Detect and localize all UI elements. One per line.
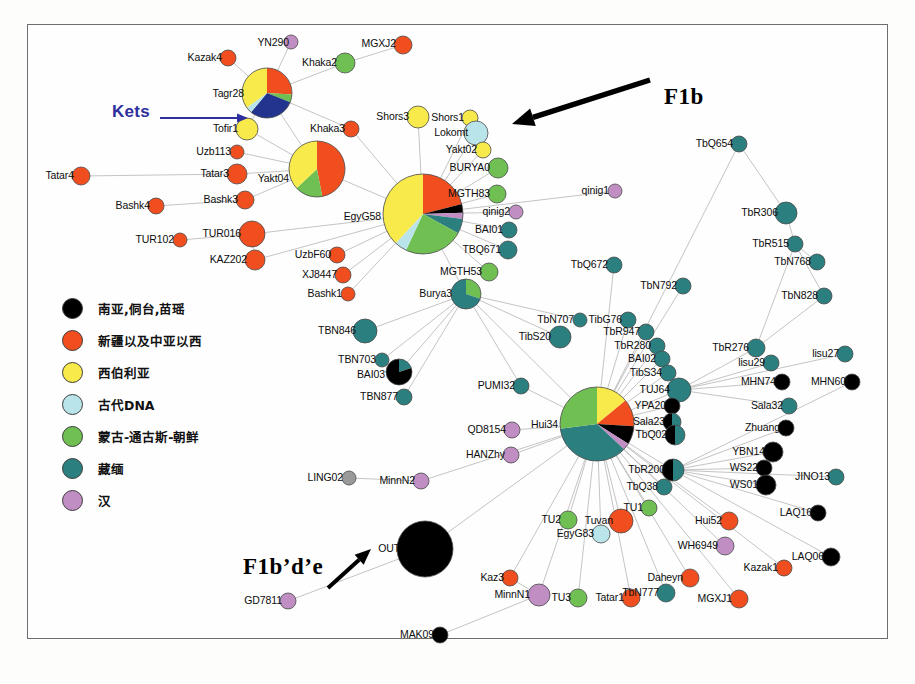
network-node-TbR515[interactable] (787, 236, 803, 252)
network-node-OUT[interactable] (397, 521, 453, 577)
node-disc (592, 525, 610, 543)
node-disc (664, 398, 680, 414)
network-node-LAQ16[interactable] (810, 505, 826, 521)
node-label-TbQ02: TbQ02 (635, 428, 667, 440)
network-node-BAI02[interactable] (654, 351, 670, 367)
network-node-Tagr28[interactable] (242, 68, 292, 118)
network-node-WH6949[interactable] (716, 537, 734, 555)
network-node-lisu27[interactable] (837, 346, 853, 362)
network-node-TUR016[interactable] (239, 221, 265, 247)
network-node-GD7811[interactable] (280, 593, 296, 609)
network-node-Khaka2[interactable] (335, 53, 355, 73)
network-node-TbQ654[interactable] (731, 136, 747, 152)
network-node-Sala32[interactable] (781, 398, 797, 414)
node-disc (394, 36, 412, 54)
network-node-EgyG58[interactable] (383, 174, 463, 254)
network-node-TbR306[interactable] (775, 202, 797, 224)
node-disc (230, 145, 244, 159)
network-node-TbR200[interactable] (662, 459, 684, 481)
network-node-PUMI32[interactable] (513, 378, 529, 394)
network-node-qinig1[interactable] (608, 184, 622, 198)
network-node-TbN777[interactable] (657, 584, 675, 602)
network-node-MHN60[interactable] (844, 374, 860, 390)
network-node-TbR276[interactable] (747, 339, 765, 357)
network-node-WS01[interactable] (756, 475, 776, 495)
network-node-TBN703[interactable] (375, 353, 389, 367)
network-node-YBN14[interactable] (763, 442, 783, 462)
network-node-TbR947[interactable] (638, 324, 654, 340)
network-node-HANZhy[interactable] (503, 447, 519, 463)
node-label-TibS34: TibS34 (630, 366, 662, 378)
network-node-MGXJ2[interactable] (394, 36, 412, 54)
network-node-MGXJ1[interactable] (730, 590, 748, 608)
node-disc (781, 398, 797, 414)
node-label-WH6949: WH6949 (678, 539, 718, 551)
node-disc (528, 584, 550, 606)
network-node-MGTH53[interactable] (480, 263, 498, 281)
network-node-Kazak4[interactable] (220, 50, 236, 66)
network-node-BAI01[interactable] (501, 222, 517, 238)
network-node-TU3[interactable] (569, 589, 587, 607)
network-node-TbN707[interactable] (573, 313, 587, 327)
network-node-BAI03[interactable] (386, 359, 412, 385)
network-node-Yakt02[interactable] (475, 142, 491, 158)
network-node-Hui34[interactable] (560, 387, 634, 461)
network-node-TbQ38[interactable] (656, 479, 672, 495)
network-node-Zhuang[interactable] (778, 420, 794, 436)
network-node-UzbF60[interactable] (329, 247, 345, 263)
legend-item-tibeto-burman: 藏缅 (62, 452, 202, 484)
network-node-BURYA0[interactable] (488, 158, 508, 178)
legend-swatch-icon (62, 362, 83, 383)
network-node-Bashk4[interactable] (148, 198, 164, 214)
network-node-TBN877[interactable] (396, 389, 412, 405)
network-node-TibS20[interactable] (549, 326, 571, 348)
node-label-Kazak4: Kazak4 (188, 51, 222, 63)
network-node-Shors3[interactable] (407, 106, 429, 128)
network-node-qinig2[interactable] (509, 205, 523, 219)
node-disc (475, 142, 491, 158)
legend-item-xinjiang-central-asia-west: 新疆以及中亚以西 (62, 324, 202, 356)
network-node-Daheyn[interactable] (681, 569, 699, 587)
network-node-MinnN1[interactable] (528, 584, 550, 606)
network-node-WS22[interactable] (756, 460, 772, 476)
network-node-TbN768[interactable] (809, 254, 825, 270)
network-node-LING02[interactable] (342, 471, 356, 485)
node-label-Tatar3: Tatar3 (200, 167, 229, 179)
node-label-OUT: OUT (378, 542, 400, 554)
network-node-EgyG83[interactable] (592, 525, 610, 543)
network-node-YPA20[interactable] (664, 398, 680, 414)
node-label-UzbF60: UzbF60 (295, 248, 331, 260)
network-node-Kazak1[interactable] (776, 560, 792, 576)
network-node-MGTH83[interactable] (488, 185, 506, 203)
network-node-TUR102[interactable] (173, 233, 187, 247)
network-node-LAQ06[interactable] (822, 548, 840, 566)
network-node-TbN792[interactable] (675, 278, 691, 294)
network-node-Bashk1[interactable] (341, 287, 355, 301)
network-node-Uzb113[interactable] (230, 145, 244, 159)
network-node-TbQ672[interactable] (606, 257, 622, 273)
network-node-TbQ02[interactable] (665, 425, 685, 445)
network-node-Bashk3[interactable] (236, 191, 254, 209)
node-label-EgyG58: EgyG58 (344, 210, 381, 222)
network-node-TibS34[interactable] (660, 365, 676, 381)
network-edge (234, 63, 248, 76)
node-disc (335, 267, 351, 283)
network-node-lisu29[interactable] (763, 355, 779, 371)
node-label-QD8154: QD8154 (467, 423, 506, 435)
network-node-KAZ202[interactable] (245, 250, 265, 270)
node-label-MinnN1: MinnN1 (494, 588, 530, 600)
network-node-Khaka3[interactable] (343, 121, 359, 137)
network-node-Hui52[interactable] (720, 512, 738, 530)
node-label-Kaz3: Kaz3 (480, 571, 504, 583)
network-node-JINO13[interactable] (828, 469, 844, 485)
network-node-MHN74[interactable] (774, 374, 790, 390)
network-node-Tatar4[interactable] (72, 167, 90, 185)
network-node-TBN846[interactable] (353, 319, 377, 343)
network-node-XJ8447[interactable] (335, 267, 351, 283)
network-node-Yakt04[interactable] (289, 141, 345, 197)
network-node-Burya3[interactable] (451, 279, 481, 309)
network-node-MAK09[interactable] (432, 627, 448, 643)
network-node-Tatar3[interactable] (227, 164, 247, 184)
network-node-TbN828[interactable] (816, 288, 832, 304)
network-node-TBQ671[interactable] (499, 241, 517, 259)
